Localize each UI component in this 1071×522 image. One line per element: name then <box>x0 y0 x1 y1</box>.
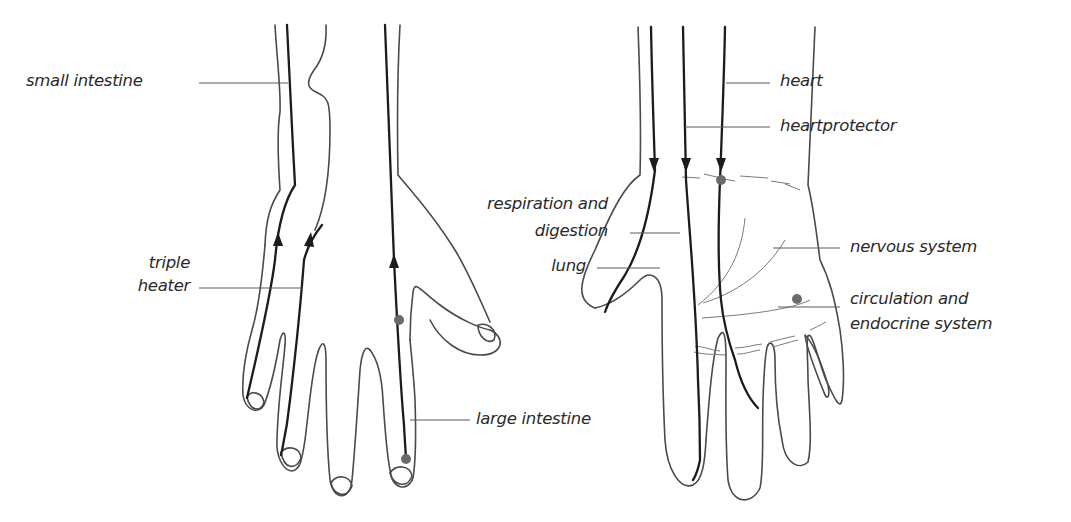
label-lung: lung <box>500 256 586 276</box>
label-large-intestine: large intestine <box>476 409 591 429</box>
right-hand-arrows <box>649 158 726 172</box>
label-heart: heart <box>780 71 822 91</box>
left-hand-arrows <box>273 232 399 268</box>
meridian-diagram: small intestine triple heater large inte… <box>0 0 1071 522</box>
label-respiration-line1: respiration and <box>440 194 608 214</box>
left-leader-lines <box>199 83 470 420</box>
label-small-intestine: small intestine <box>26 71 143 91</box>
arrow-down-icon <box>649 158 659 172</box>
arrow-down-icon <box>681 158 691 172</box>
palm-creases <box>682 174 826 355</box>
meridian-lung <box>605 27 655 312</box>
label-circulation-line2: endocrine system <box>850 314 992 334</box>
right-hand-meridians <box>605 27 758 480</box>
label-triple-heater-line1: triple <box>120 253 190 273</box>
acupoint-large-intestine-tip <box>401 454 411 464</box>
left-hand-outline <box>243 25 500 496</box>
acupoint-circulation <box>792 294 802 304</box>
meridian-heart <box>719 27 758 408</box>
label-triple-heater-line2: heater <box>120 276 190 296</box>
arrow-up-icon <box>304 232 314 247</box>
right-hand-outline <box>582 27 844 500</box>
arrow-up-icon <box>389 254 399 268</box>
acupoint-large-intestine-upper <box>394 315 404 325</box>
arrow-up-icon <box>273 232 283 246</box>
label-nervous-system: nervous system <box>850 237 977 257</box>
label-circulation-line1: circulation and <box>850 289 968 309</box>
meridian-small-intestine <box>247 25 295 398</box>
label-heartprotector: heartprotector <box>780 116 896 136</box>
meridian-heartprotector <box>683 27 700 480</box>
acupoint-heart-wrist <box>716 175 726 185</box>
meridian-large-intestine <box>385 25 406 462</box>
arrow-down-icon <box>716 158 726 172</box>
label-respiration-line2: digestion <box>440 221 608 241</box>
